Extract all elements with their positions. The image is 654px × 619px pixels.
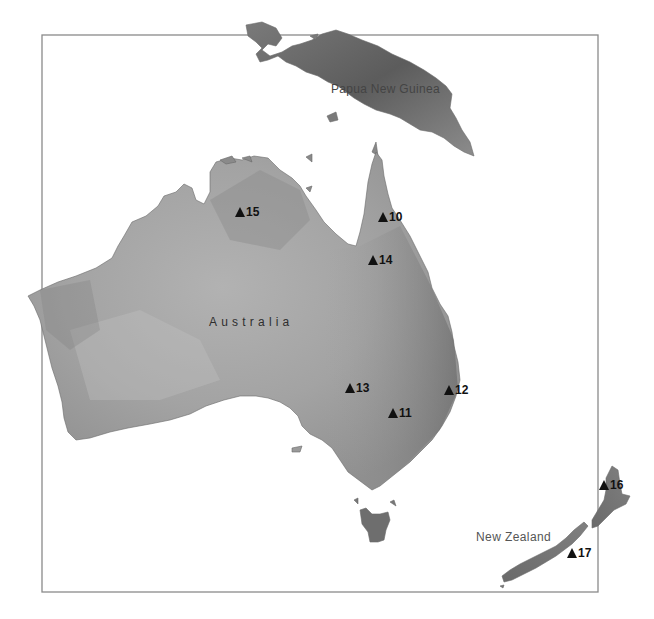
site-marker-label: 14 <box>379 253 392 267</box>
triangle-up-icon <box>599 480 609 490</box>
site-marker-15[interactable]: 15 <box>235 205 259 219</box>
tasmania-landmass <box>354 498 396 542</box>
papua-new-guinea-label: Papua New Guinea <box>331 82 440 96</box>
site-marker-10[interactable]: 10 <box>378 210 402 224</box>
map-canvas <box>0 0 654 619</box>
site-marker-11[interactable]: 11 <box>388 406 412 420</box>
triangle-up-icon <box>388 408 398 418</box>
triangle-up-icon <box>378 212 388 222</box>
site-marker-label: 12 <box>455 383 468 397</box>
site-marker-16[interactable]: 16 <box>599 478 623 492</box>
site-marker-label: 11 <box>399 406 412 420</box>
site-marker-label: 15 <box>246 205 259 219</box>
site-marker-14[interactable]: 14 <box>368 253 392 267</box>
new-zealand-label: New Zealand <box>476 530 551 544</box>
australia-label: Australia <box>209 315 294 329</box>
site-marker-label: 17 <box>578 546 591 560</box>
triangle-up-icon <box>235 207 245 217</box>
site-marker-label: 13 <box>356 381 369 395</box>
triangle-up-icon <box>444 385 454 395</box>
site-marker-13[interactable]: 13 <box>345 381 369 395</box>
site-marker-12[interactable]: 12 <box>444 383 468 397</box>
triangle-up-icon <box>567 548 577 558</box>
triangle-up-icon <box>368 255 378 265</box>
site-marker-label: 16 <box>610 478 623 492</box>
site-marker-17[interactable]: 17 <box>567 546 591 560</box>
site-marker-label: 10 <box>389 210 402 224</box>
triangle-up-icon <box>345 383 355 393</box>
